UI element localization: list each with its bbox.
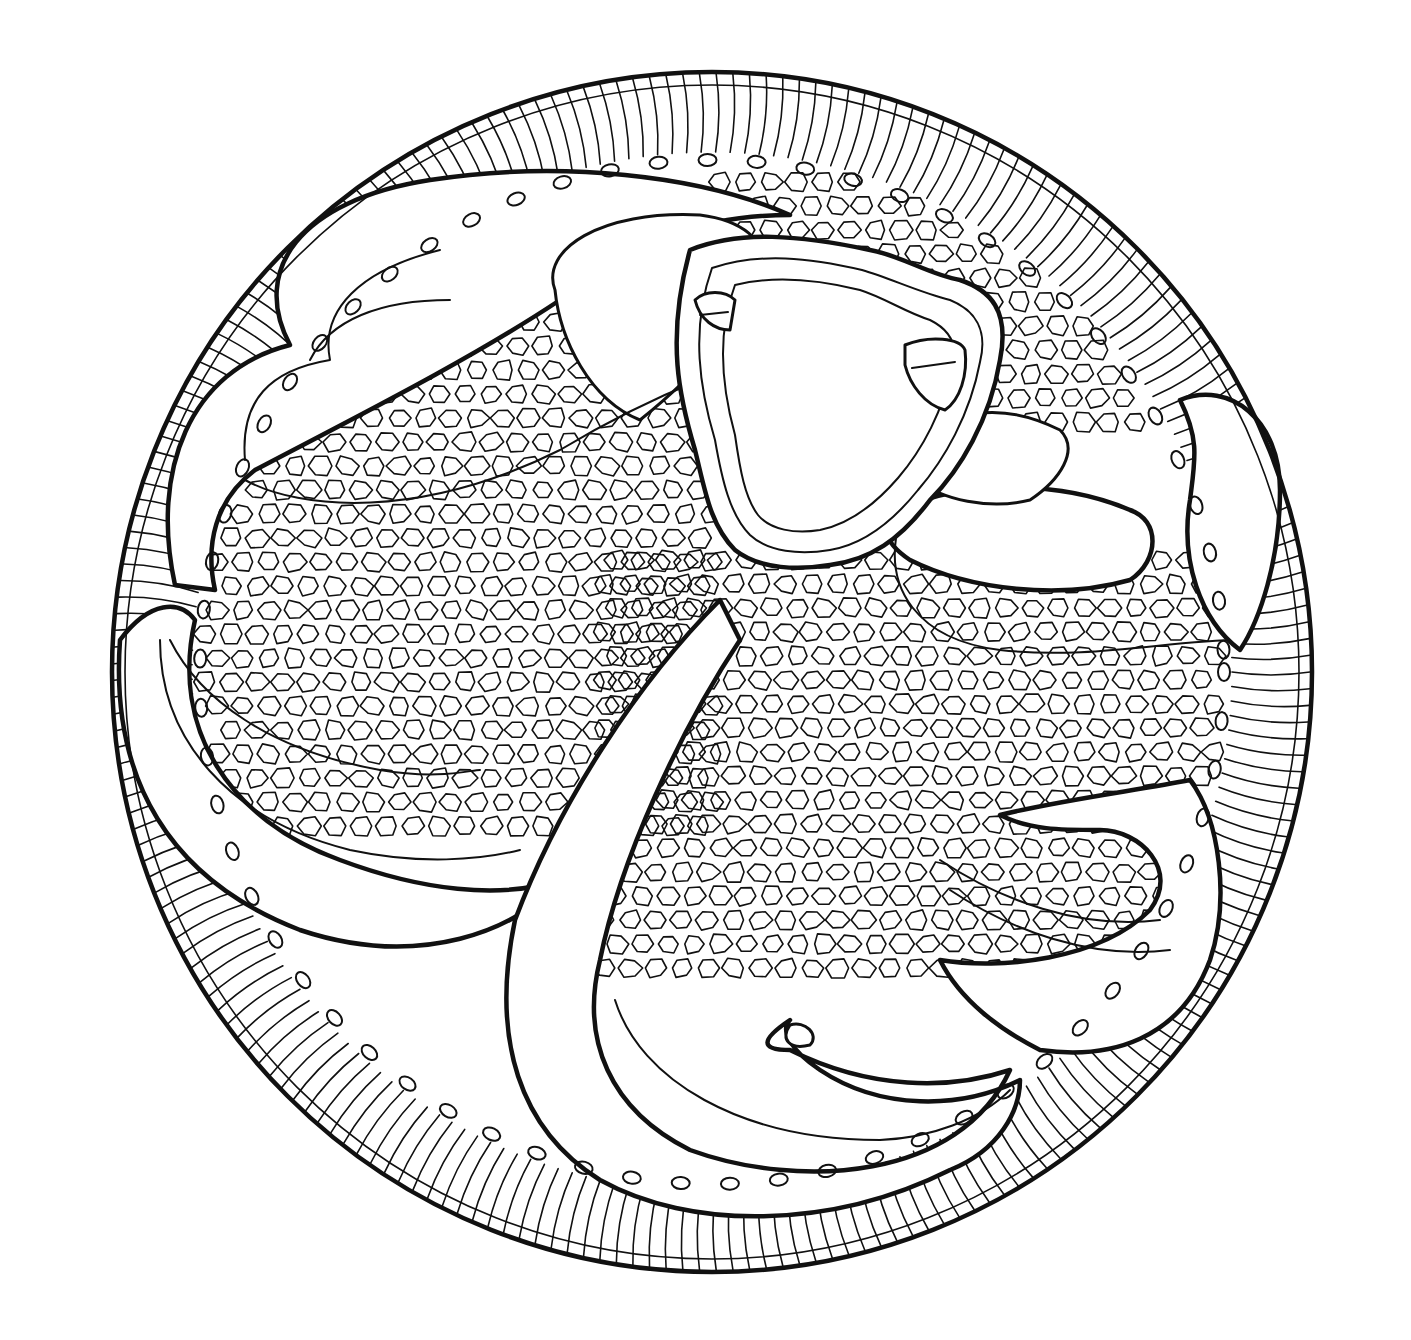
artwork-canvas: Circular line-art mandala coloring page <box>0 0 1411 1340</box>
mandala-illustration <box>0 0 1411 1340</box>
